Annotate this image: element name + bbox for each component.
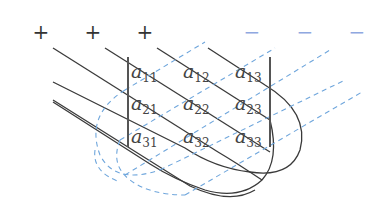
positive-line-join: [218, 152, 262, 180]
minus-sign: −: [297, 22, 314, 42]
positive-diagonals: [53, 48, 302, 197]
matrix-entry-a12: a12: [183, 60, 210, 85]
negative-loop-3: [95, 150, 120, 182]
matrix-entry-a13: a13: [235, 60, 262, 85]
matrix-entry-a23: a23: [235, 92, 262, 117]
matrix-entry-a11: a11: [131, 60, 158, 85]
matrix-entry-a22: a22: [183, 92, 210, 117]
matrix-entry-a33: a33: [235, 125, 262, 150]
matrix-entry-a32: a32: [183, 125, 210, 150]
determinant-right-bar: [269, 57, 271, 147]
matrix-entry-a21: a21: [131, 92, 158, 117]
minus-sign: −: [244, 22, 261, 42]
plus-sign: +: [33, 22, 50, 42]
matrix-entry-a31: a31: [131, 125, 158, 150]
plus-sign: +: [137, 22, 154, 42]
negative-line-5: [185, 92, 362, 195]
positive-line-loop-1: [53, 48, 302, 173]
minus-sign: −: [349, 22, 366, 42]
determinant-left-bar: [127, 57, 129, 147]
sarrus-diagram: + + + − − − a11 a12 a13 a21 a22 a23 a31 …: [0, 0, 387, 221]
plus-sign: +: [85, 22, 102, 42]
